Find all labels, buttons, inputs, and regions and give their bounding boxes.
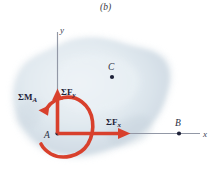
x-axis-label: x: [203, 130, 207, 139]
point-B-dot: [177, 131, 181, 135]
point-label-C: C: [108, 63, 114, 73]
sum-fx-subscript: x: [117, 121, 121, 129]
sum-fy-label: ΣFy: [61, 88, 76, 99]
sum-fx-label: ΣFx: [106, 118, 121, 129]
point-label-A: A: [44, 131, 50, 141]
point-C-dot: [110, 75, 114, 79]
point-label-B: B: [175, 119, 181, 129]
sum-ma-subscript: A: [32, 96, 37, 104]
figure-caption: (b): [100, 3, 111, 13]
sum-ma-label: ΣMA: [18, 93, 37, 104]
figure-panel: (b) y x A B C ΣFy ΣFx ΣMA: [0, 0, 216, 191]
y-axis-label: y: [60, 26, 64, 35]
sum-fy-subscript: y: [72, 91, 75, 99]
